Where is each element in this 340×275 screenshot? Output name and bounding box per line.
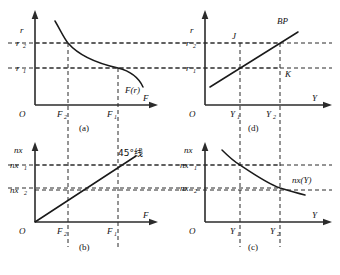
panel-d-ytick-r1: r <box>186 63 190 73</box>
panel-d-xtick-Y2: Y <box>266 109 272 119</box>
panel-b-x-axis-label: F <box>142 210 149 220</box>
panel-d-curve-label: BP <box>277 16 288 26</box>
panel-d-y-axis-label: r <box>190 25 194 35</box>
panel-c-caption: (c) <box>248 242 258 252</box>
panel-d-xtick-Y1: Y <box>230 109 236 119</box>
panel-b-y-axis-arrow-icon <box>32 142 39 151</box>
panel-d-ytick-r2: r <box>186 38 190 48</box>
panel-b-ytick-nx2-sub: 2 <box>24 190 27 196</box>
panel-b-x-axis-arrow-icon <box>149 219 158 226</box>
panel-a-x-axis-label: F <box>142 93 149 103</box>
panel-d-point-K: K <box>284 69 292 79</box>
panel-d-x-axis-label: Y <box>312 93 318 103</box>
panel-c-y-axis-arrow-icon <box>202 142 209 151</box>
panel-b-ytick-nx2: nx <box>10 185 19 195</box>
panel-a-xtick-F1: F <box>106 109 113 119</box>
panel-d-ytick-r1-sub: 1 <box>193 68 196 74</box>
panel-a-x-axis-arrow-icon <box>149 102 158 109</box>
panel-c-xtick-Y1-sub: 1 <box>237 231 240 237</box>
panel-a-origin-label: O <box>19 109 26 119</box>
panel-b-xtick-F1: F <box>106 226 113 236</box>
panel-b-ytick-nx1-sub: 1 <box>24 165 27 171</box>
panel-b-y-axis-label: nx <box>14 145 23 155</box>
panel-d-origin-label: O <box>189 109 196 119</box>
panel-c-x-axis-label: Y <box>312 210 318 220</box>
panel-d-xtick-Y1-sub: 1 <box>237 114 240 120</box>
panel-c-ytick-nx1: nx <box>180 160 189 170</box>
panel-c-ytick-nx1-sub: 1 <box>194 165 197 171</box>
panel-d-xtick-Y2-sub: 2 <box>273 114 276 120</box>
panel-a-xtick-F2: F <box>56 109 63 119</box>
figure-svg: r F O r 2 r 1 F 2 F 1 F(r) (a) r Y O r 2… <box>0 0 340 275</box>
panel-d: r Y O r 2 r 1 Y 1 Y 2 J K BP (d) <box>8 10 332 247</box>
panel-b-xtick-F2-sub: 2 <box>64 231 67 237</box>
panel-b-curve-label: 45°线 <box>118 147 143 158</box>
panel-d-ytick-r2-sub: 2 <box>193 43 196 49</box>
panel-a-xtick-F1-sub: 1 <box>114 114 117 120</box>
panel-a-ytick-r1-sub: 1 <box>23 68 26 74</box>
four-quadrant-figure: r F O r 2 r 1 F 2 F 1 F(r) (a) r Y O r 2… <box>0 0 340 275</box>
panel-c-ytick-nx2-sub: 2 <box>194 188 197 194</box>
panel-c-origin-label: O <box>189 226 196 236</box>
panel-b-caption: (b) <box>79 242 90 252</box>
panel-d-point-J: J <box>232 31 237 41</box>
panel-c-y-axis-label: nx <box>184 145 193 155</box>
panel-d-x-axis-arrow-icon <box>323 102 332 109</box>
panel-c-xtick-Y2: Y <box>270 226 276 236</box>
panel-c-xtick-Y2-sub: 2 <box>277 231 280 237</box>
panel-c-ytick-nx2: nx <box>180 183 189 193</box>
panel-a-caption: (a) <box>79 123 89 133</box>
panel-b-xtick-F2: F <box>56 226 63 236</box>
panel-c-x-axis-arrow-icon <box>323 219 332 226</box>
panel-a-y-axis-arrow-icon <box>32 10 39 19</box>
panel-d-y-axis-arrow-icon <box>202 10 209 19</box>
panel-c-xtick-Y1: Y <box>230 226 236 236</box>
panel-d-caption: (d) <box>248 123 259 133</box>
panel-b-origin-label: O <box>19 226 26 236</box>
panel-a-ytick-r2-sub: 2 <box>23 43 26 49</box>
panel-a-y-axis-label: r <box>20 25 24 35</box>
panel-c-curve-label: nx(Y) <box>292 175 312 185</box>
panel-a-curve-label: F(r) <box>124 85 140 95</box>
panel-a-xtick-F2-sub: 2 <box>64 114 67 120</box>
panel-b-xtick-F1-sub: 1 <box>114 231 117 237</box>
panel-a: r F O r 2 r 1 F 2 F 1 F(r) (a) <box>16 10 332 247</box>
panel-b-curve-45-line <box>35 156 136 222</box>
panel-b: nx F O nx 1 nx 2 F 2 F 1 45°线 (b) <box>10 142 332 252</box>
